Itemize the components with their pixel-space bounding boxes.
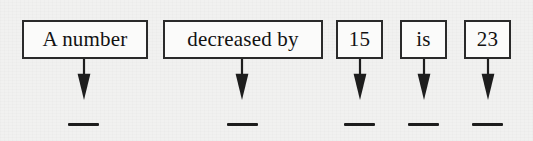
answer-blank-4[interactable] (408, 123, 439, 126)
phrase-box-15[interactable]: 15 (336, 20, 383, 59)
answer-blank-5[interactable] (472, 123, 503, 126)
phrase-box-decreased-by[interactable]: decreased by (163, 20, 323, 59)
down-arrow-icon-4 (416, 59, 432, 100)
phrase-box-23[interactable]: 23 (464, 20, 511, 59)
phrase-box-a-number[interactable]: A number (22, 20, 148, 59)
down-arrow-icon-2 (234, 59, 250, 100)
answer-blank-2[interactable] (227, 123, 258, 126)
phrase-box-label: is (416, 29, 430, 50)
phrase-box-is[interactable]: is (400, 20, 447, 59)
worksheet-canvas: A number decreased by 15 is 23 (0, 0, 533, 141)
down-arrow-icon-3 (352, 59, 368, 100)
phrase-box-label: 15 (349, 29, 370, 50)
phrase-box-label: A number (42, 29, 127, 50)
down-arrow-icon-1 (76, 59, 92, 100)
phrase-box-label: decreased by (187, 29, 298, 50)
phrase-box-label: 23 (477, 29, 498, 50)
answer-blank-1[interactable] (68, 123, 99, 126)
down-arrow-icon-5 (480, 59, 496, 100)
answer-blank-3[interactable] (344, 123, 375, 126)
